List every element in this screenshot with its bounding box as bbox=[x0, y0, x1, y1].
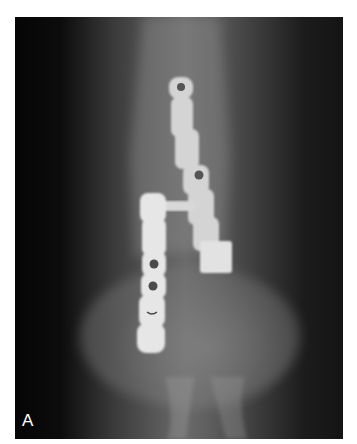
screw-hole bbox=[177, 83, 185, 91]
radiograph-image bbox=[15, 17, 343, 439]
panel-label: A bbox=[22, 411, 33, 431]
lower-plate bbox=[137, 193, 166, 353]
radiograph-panel: A bbox=[15, 17, 343, 439]
screw-hole bbox=[149, 282, 158, 291]
screw-hole bbox=[195, 171, 204, 180]
screw-hole bbox=[150, 260, 159, 269]
